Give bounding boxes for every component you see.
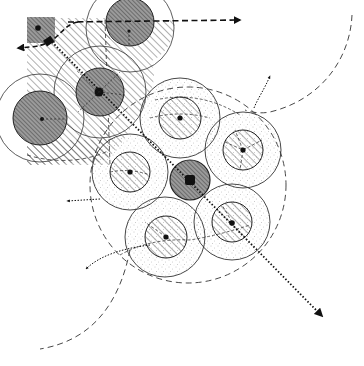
west-branch-arrow: [67, 199, 100, 201]
southwest-expansion-arc: [40, 250, 130, 349]
cluster-diagram: [0, 0, 364, 366]
top-node-core: [106, 0, 154, 46]
north-node-dot: [177, 115, 182, 120]
northeast-expansion-arc: [245, 15, 352, 113]
east-node-dot: [240, 147, 245, 152]
origin-square-dot: [35, 25, 41, 31]
west-node-dot: [127, 169, 132, 174]
north-branch-arrow: [254, 76, 270, 108]
south-node-dot: [163, 234, 168, 239]
core-node-dot: [185, 175, 195, 185]
left-node-core: [13, 91, 67, 145]
